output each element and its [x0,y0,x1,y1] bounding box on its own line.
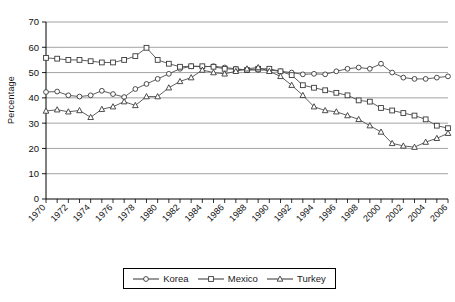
data-point-circle [312,71,317,76]
line-chart: Percentage 01020304050607019701972197419… [0,0,455,302]
data-point-circle [66,93,71,98]
y-tick-label: 0 [34,193,39,204]
x-tick-label: 1980 [138,202,159,223]
data-point-circle [55,89,60,94]
data-point-square [356,98,361,103]
data-point-square [300,83,305,88]
data-point-square [312,85,317,90]
data-point-circle [356,65,361,70]
data-point-triangle [188,75,194,80]
series-turkey [43,65,451,150]
data-point-circle [166,71,171,76]
y-tick-label: 30 [28,118,39,129]
legend-label-korea: Korea [162,273,188,284]
data-point-square [367,99,372,104]
data-point-square [55,56,60,61]
data-point-square [77,58,82,63]
plot-area: 0102030405060701970197219741976197819801… [0,0,455,302]
data-point-square [111,60,116,65]
x-tick-label: 1992 [272,202,293,223]
data-point-square [434,123,439,128]
data-point-square [390,108,395,113]
data-point-circle [390,70,395,75]
data-point-square [99,60,104,65]
data-point-square [379,106,384,111]
data-point-square [323,88,328,93]
x-tick-label: 1976 [93,202,114,223]
data-point-triangle [54,107,60,112]
data-point-circle [379,61,384,66]
data-point-circle [446,74,451,79]
x-tick-label: 1970 [26,202,47,223]
data-point-square [155,58,160,63]
legend-item-mexico: Mexico [198,273,258,284]
data-point-square [334,90,339,95]
legend-item-korea: Korea [133,273,188,284]
data-point-square [211,64,216,69]
data-point-square [423,117,428,122]
data-point-square [289,73,294,78]
y-tick-label: 20 [28,143,39,154]
x-tick-label: 1986 [205,202,226,223]
data-point-square [345,93,350,98]
series-mexico [44,45,451,130]
data-point-square [66,58,71,63]
data-point-square [189,64,194,69]
y-tick-label: 40 [28,92,39,103]
data-point-square [208,276,213,281]
x-tick-label: 1974 [71,202,92,223]
data-point-triangle [289,82,295,87]
series-line [46,48,448,128]
legend-label-turkey: Turkey [296,273,326,284]
data-point-square [44,56,49,61]
x-tick-label: 2006 [428,202,449,223]
data-point-triangle [121,99,127,104]
y-tick-label: 10 [28,168,39,179]
data-point-circle [367,66,372,71]
data-point-circle [323,72,328,77]
x-tick-label: 1990 [250,202,271,223]
data-point-circle [111,92,116,97]
x-tick-label: 1978 [116,202,137,223]
data-point-circle [334,69,339,74]
legend-marker-square-icon [198,274,224,284]
y-tick-label: 60 [28,42,39,53]
series-line [46,68,448,148]
data-point-triangle [77,108,83,113]
data-point-square [133,54,138,59]
legend-item-turkey: Turkey [267,273,326,284]
legend-label-mexico: Mexico [227,273,258,284]
data-point-circle [155,76,160,81]
data-point-square [122,58,127,63]
data-point-circle [412,76,417,81]
data-point-circle [99,88,104,93]
legend-marker-circle-icon [133,274,159,284]
data-point-square [401,111,406,116]
data-point-triangle [88,114,94,119]
x-tick-label: 1994 [294,202,315,223]
data-point-circle [44,90,49,95]
data-point-circle [88,93,93,98]
data-point-square [144,45,149,50]
data-point-square [88,59,93,64]
legend-marker-triangle-icon [267,274,293,284]
data-point-circle [423,76,428,81]
data-point-circle [300,72,305,77]
x-tick-label: 1982 [160,202,181,223]
x-tick-label: 1972 [49,202,70,223]
x-tick-label: 2002 [384,202,405,223]
x-tick-label: 1988 [227,202,248,223]
data-point-triangle [378,129,384,134]
data-point-circle [77,94,82,99]
data-point-circle [345,66,350,71]
data-point-square [166,61,171,66]
data-point-triangle [166,85,172,90]
x-tick-label: 2004 [406,202,427,223]
data-point-square [412,113,417,118]
x-tick-label: 1996 [317,202,338,223]
x-tick-label: 1998 [339,202,360,223]
data-point-circle [401,75,406,80]
chart-legend: Korea Mexico Turkey [123,268,336,289]
data-point-circle [144,82,149,87]
x-tick-label: 1984 [183,202,204,223]
